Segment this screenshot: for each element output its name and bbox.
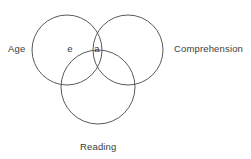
region-label-age-comprehension: a (91, 43, 103, 54)
set-label-comprehension: Comprehension (174, 43, 243, 54)
venn-circles-group (0, 0, 251, 159)
circle-reading (61, 50, 135, 124)
venn-diagram: Age Comprehension Reading e a (0, 0, 251, 159)
set-label-age: Age (8, 43, 25, 54)
region-label-age-only: e (64, 43, 76, 54)
set-label-reading: Reading (80, 141, 116, 152)
